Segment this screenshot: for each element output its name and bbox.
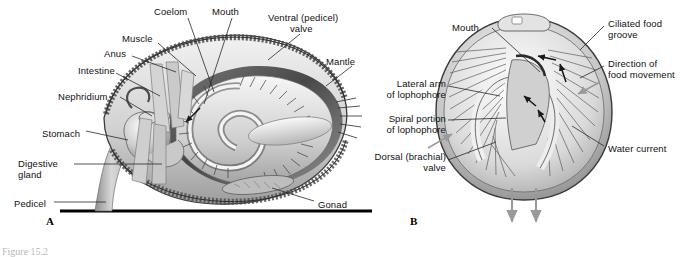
- label-digestive-gland: Digestive gland: [18, 158, 58, 180]
- label-b-mouth: Mouth: [452, 22, 479, 33]
- label-direction-of-food-movement: Direction of food movement: [608, 58, 675, 80]
- label-intestine: Intestine: [78, 65, 115, 76]
- b-hinge: [498, 14, 550, 31]
- label-spiral-portion-of-lophophore: Spiral portion of lophophore: [381, 113, 446, 135]
- label-nephridium: Nephridium: [58, 91, 108, 102]
- label-gonad: Gonad: [318, 199, 347, 210]
- label-anus: Anus: [104, 48, 126, 59]
- label-water-current: Water current: [608, 143, 667, 154]
- label-dorsal-brachial-valve: Dorsal (brachial) valve: [374, 151, 446, 173]
- leader-b-ciliated-groove: [580, 26, 604, 50]
- label-ventral-pedicel-valve: Ventral (pedicel) valve: [268, 12, 338, 34]
- panel-label-a: A: [46, 215, 54, 227]
- label-coelom: Coelom: [154, 6, 187, 17]
- label-mantle: Mantle: [326, 56, 355, 67]
- b-hinge-plate: [512, 17, 522, 24]
- label-mouth: Mouth: [212, 6, 239, 17]
- label-ciliated-food-groove: Ciliated food groove: [608, 18, 662, 40]
- label-lateral-arm-of-lophophore: Lateral arm of lophophore: [386, 78, 446, 100]
- label-pedicel: Pedicel: [14, 198, 46, 209]
- label-stomach: Stomach: [42, 128, 80, 139]
- panel-label-b: B: [410, 215, 417, 227]
- figure-caption-fragment: Figure 15.2: [2, 246, 48, 257]
- label-muscle: Muscle: [122, 33, 153, 44]
